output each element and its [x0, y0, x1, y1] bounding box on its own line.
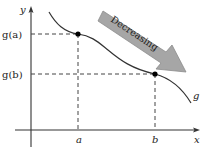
y-axis-label: y [19, 4, 26, 15]
x-axis-label: x [194, 134, 200, 145]
g-a-label: g(a) [2, 29, 22, 40]
point-a [75, 31, 80, 36]
g-b-label: g(b) [2, 69, 23, 80]
b-label: b [152, 134, 158, 145]
point-b [152, 71, 157, 76]
decreasing-function-diagram: y x Decreasing g g(a) g(b) a b [0, 0, 206, 151]
dashed-guides [31, 34, 155, 130]
a-label: a [76, 134, 82, 145]
function-label: g [193, 90, 199, 101]
decreasing-arrow: Decreasing [98, 11, 186, 72]
